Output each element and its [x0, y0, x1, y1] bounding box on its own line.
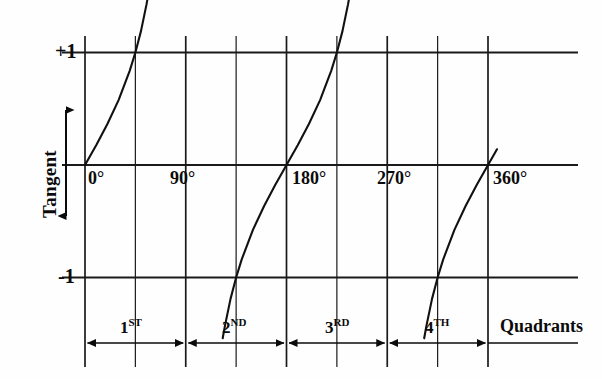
tangent-function-figure: +1 -1 Tangent 0° 90° 180° 270° 360° 1ST …: [0, 0, 602, 379]
quadrant-suffix-4: TH: [434, 316, 450, 328]
x-tick-label-90: 90°: [170, 169, 195, 187]
quadrant-suffix-3: RD: [334, 316, 350, 328]
quadrant-suffix-2: ND: [231, 316, 247, 328]
quadrant-suffix-1: ST: [129, 316, 142, 328]
horizontal-gridlines: [62, 53, 578, 278]
quadrant-label-4: 4TH: [425, 317, 449, 336]
x-tick-label-360: 360°: [493, 169, 527, 187]
quadrant-label-2: 2ND: [222, 317, 246, 336]
x-tick-label-0: 0°: [88, 169, 104, 187]
quadrant-ordinal-1: 1: [120, 318, 129, 337]
y-tick-label-minus-one: -1: [58, 266, 75, 286]
x-tick-label-180: 180°: [292, 169, 326, 187]
quadrant-ordinal-2: 2: [222, 318, 231, 337]
quadrants-caption: Quadrants: [500, 317, 583, 335]
quadrant-ordinal-3: 3: [325, 318, 334, 337]
tangent-curves: [85, 0, 497, 338]
quadrant-label-3: 3RD: [325, 317, 349, 336]
y-tick-label-plus-one: +1: [55, 41, 76, 61]
y-axis-title: Tangent: [40, 150, 59, 218]
tangent-branch-1: [85, 0, 150, 165]
tangent-branch-3: [424, 149, 497, 338]
quadrant-label-1: 1ST: [120, 317, 142, 336]
x-tick-label-270: 270°: [377, 169, 411, 187]
quadrant-ordinal-4: 4: [425, 318, 434, 337]
